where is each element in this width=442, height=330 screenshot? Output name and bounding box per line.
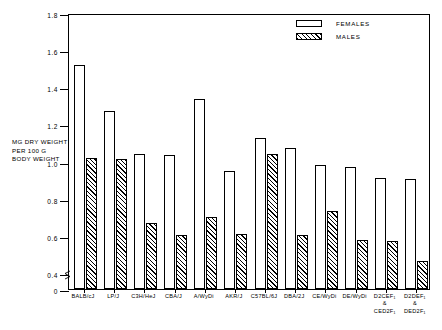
bar-female: [164, 155, 175, 289]
y-tick-mark: [60, 164, 69, 165]
bar-group: [345, 15, 368, 289]
bar-group: [74, 15, 97, 289]
bar-female: [405, 179, 416, 289]
bar-male: [206, 217, 217, 289]
y-tick-mark: [60, 89, 69, 90]
y-tick-mark: [60, 15, 69, 16]
x-axis-label-line: LP/J: [107, 293, 119, 299]
legend-label-males: MALES: [336, 33, 360, 40]
y-tick-label: 0.6: [47, 234, 58, 241]
bar-male: [86, 158, 97, 289]
y-tick-mark: [60, 201, 69, 202]
bar-male: [146, 223, 157, 289]
y-tick-mark: [60, 52, 69, 53]
bar-group: [224, 15, 247, 289]
bar-female: [224, 171, 235, 289]
bar-male: [236, 234, 247, 289]
bar-female: [345, 167, 356, 289]
x-axis-label-line: AKR/J: [225, 293, 242, 299]
y-axis-label-line-1: MG DRY WEIGHT: [12, 138, 72, 147]
bar-group: [164, 15, 187, 289]
y-tick-mark: [60, 126, 69, 127]
x-axis-label-line: CBA/J: [165, 293, 182, 299]
bar-male: [417, 261, 428, 289]
y-axis-label: MG DRY WEIGHT PER 100 G BODY WEIGHT: [12, 138, 72, 164]
y-tick-mark: [60, 238, 69, 239]
legend-entry-females: FEMALES: [296, 17, 424, 30]
x-axis-label-line: &: [393, 300, 437, 307]
y-axis-label-line-3: BODY WEIGHT: [12, 155, 72, 164]
y-axis-label-line-2: PER 100 G: [12, 147, 72, 156]
legend-label-females: FEMALES: [336, 20, 370, 27]
bar-male: [387, 241, 398, 290]
bar-male: [357, 240, 368, 289]
bars-container: [69, 15, 429, 289]
bar-male: [176, 235, 187, 289]
bar-female: [194, 99, 205, 289]
y-tick-label: 1.0: [47, 160, 58, 167]
bar-group: [405, 15, 428, 289]
chart-figure: MG DRY WEIGHT PER 100 G BODY WEIGHT 1.81…: [0, 0, 442, 330]
bar-group: [255, 15, 278, 289]
x-axis-label-line: A/WyDi: [194, 293, 214, 299]
bar-group: [285, 15, 308, 289]
y-tick-mark: [60, 275, 69, 276]
bar-male: [116, 159, 127, 289]
bar-group: [315, 15, 338, 289]
y-tick-label: 1.4: [47, 86, 58, 93]
bar-male: [267, 154, 278, 289]
x-axis-label-line: DED2F₁: [393, 308, 437, 315]
legend-swatch-hatched-box: [296, 33, 322, 40]
bar-group: [375, 15, 398, 289]
bar-male: [327, 211, 338, 289]
bar-female: [375, 178, 386, 289]
bar-female: [104, 111, 115, 289]
bar-female: [315, 165, 326, 289]
y-tick-label: 1.8: [47, 12, 58, 19]
bar-male: [297, 235, 308, 289]
y-tick-label: 1.6: [47, 49, 58, 56]
y-tick-mark: [60, 291, 69, 292]
y-tick-label: 0.8: [47, 197, 58, 204]
x-axis-label-line: D2DEF₁: [404, 293, 426, 299]
legend-swatch-open-box: [296, 20, 322, 27]
bar-female: [255, 138, 266, 289]
bar-group: [104, 15, 127, 289]
bar-group: [194, 15, 217, 289]
x-axis-label: D2DEF₁&DED2F₁: [393, 293, 437, 315]
bar-female: [74, 65, 85, 289]
bar-female: [285, 148, 296, 289]
y-tick-label: 1.2: [47, 123, 58, 130]
bar-group: [134, 15, 157, 289]
plot-area: 1.81.61.41.21.00.80.60.40: [68, 14, 430, 290]
y-tick-label: 0: [54, 288, 58, 295]
legend-entry-males: MALES: [296, 30, 424, 43]
bar-female: [134, 154, 145, 289]
chart-legend: FEMALES MALES: [296, 17, 424, 43]
y-tick-label: 0.4: [47, 272, 58, 279]
